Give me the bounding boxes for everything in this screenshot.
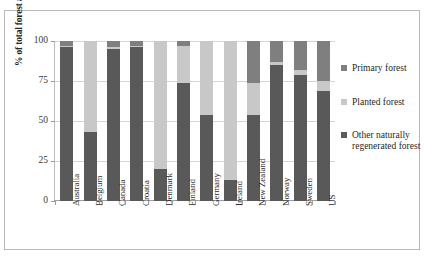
bar-segment[interactable] (270, 62, 283, 65)
bar-segment[interactable] (317, 91, 330, 201)
y-tick-label: 25 (8, 156, 48, 165)
y-tick-label: 50 (8, 116, 48, 125)
x-tick-mark (265, 201, 266, 205)
bar-segment[interactable] (107, 47, 120, 49)
bar-segment[interactable] (130, 47, 143, 201)
y-tick-label: 75 (8, 76, 48, 85)
bar-segment[interactable] (177, 41, 190, 46)
bar-segment[interactable] (247, 41, 260, 83)
x-tick-mark (242, 201, 243, 205)
plot-area: 0255075100 AustraliaBelgiumCanadaCroatia… (55, 41, 335, 201)
bar-segment[interactable] (84, 41, 97, 132)
chart-screenshot: % of total forest area 0255075100 Austra… (0, 0, 424, 262)
bar-segment[interactable] (270, 41, 283, 62)
x-tick-mark (172, 201, 173, 205)
legend-item[interactable]: Primary forest (341, 63, 424, 74)
legend-item[interactable]: Other naturally regenerated forest (341, 130, 424, 151)
bar-segment[interactable] (130, 41, 143, 46)
x-tick-label: New Zealand (257, 159, 267, 206)
bar-segment[interactable] (317, 81, 330, 91)
legend-swatch-icon (341, 99, 347, 105)
bar-segment[interactable] (247, 83, 260, 115)
legend-swatch-icon (341, 132, 347, 138)
x-tick-mark (335, 201, 336, 205)
x-tick-mark (312, 201, 313, 205)
legend-item-label: Primary forest (352, 63, 424, 74)
bar-segment[interactable] (130, 46, 143, 48)
y-tick-mark (51, 161, 55, 162)
bar-segment[interactable] (60, 46, 73, 48)
bar-segment[interactable] (200, 41, 213, 115)
y-tick-label: 0 (8, 196, 48, 205)
legend-swatch-icon (341, 65, 347, 71)
legend-item-label: Other naturally regenerated forest (352, 130, 424, 151)
x-tick-mark (288, 201, 289, 205)
x-tick-mark (148, 201, 149, 205)
y-tick-label: 100 (8, 36, 48, 45)
bar-segment[interactable] (107, 41, 120, 47)
legend-item-label: Planted forest (352, 97, 424, 108)
x-tick-mark (218, 201, 219, 205)
bar-segment[interactable] (294, 41, 307, 70)
bar-segment[interactable] (107, 49, 120, 201)
y-tick-mark (51, 81, 55, 82)
bar-segment[interactable] (317, 41, 330, 81)
chart-legend: Primary forestPlanted forestOther natura… (341, 63, 424, 174)
x-tick-mark (55, 201, 56, 205)
legend-item[interactable]: Planted forest (341, 97, 424, 108)
chart-container: % of total forest area 0255075100 Austra… (4, 10, 420, 250)
y-axis-title: % of total forest area (14, 0, 24, 66)
bar-segment[interactable] (294, 70, 307, 75)
bar-segment[interactable] (60, 41, 73, 46)
y-tick-mark (51, 121, 55, 122)
x-tick-mark (125, 201, 126, 205)
bar-segment[interactable] (177, 46, 190, 83)
x-tick-mark (102, 201, 103, 205)
x-tick-mark (195, 201, 196, 205)
y-tick-mark (51, 41, 55, 42)
bar-segment[interactable] (154, 41, 167, 169)
bar-segment[interactable] (224, 41, 237, 180)
x-tick-mark (78, 201, 79, 205)
